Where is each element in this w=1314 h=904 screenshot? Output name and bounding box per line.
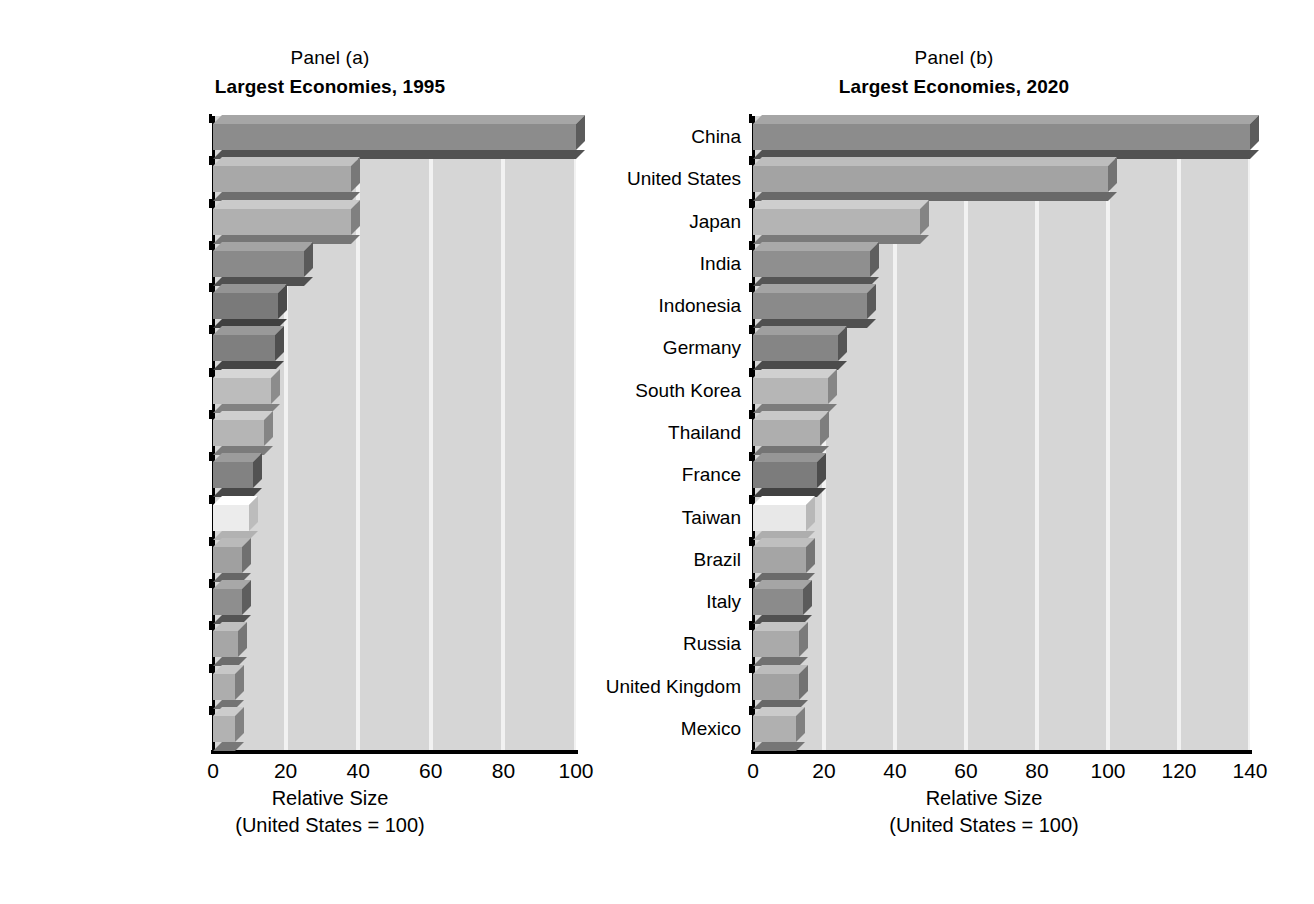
- bar[interactable]: [213, 200, 360, 244]
- bar-side-face: [799, 622, 808, 657]
- category-label: Germany: [663, 338, 741, 357]
- gridline-80: [1035, 116, 1039, 750]
- category-label: Mexico: [681, 719, 741, 738]
- bar-front-face: [753, 420, 820, 446]
- bar[interactable]: [753, 200, 929, 244]
- y-tick-mark: [749, 537, 752, 546]
- bar[interactable]: [753, 538, 815, 582]
- x-tick-60: 60: [926, 760, 1006, 781]
- x-tick-40: 40: [855, 760, 935, 781]
- x-tick-20: 20: [246, 760, 326, 781]
- gridline-80: [501, 116, 505, 750]
- bar-bottom-face: [213, 742, 244, 751]
- bar-front-face: [753, 589, 803, 615]
- bar-top-face: [753, 157, 1117, 166]
- y-tick-mark: [749, 495, 752, 504]
- x-tick-0: 0: [713, 760, 793, 781]
- bar-top-face: [213, 242, 313, 251]
- bar-top-face: [213, 369, 280, 378]
- y-tick-mark: [749, 114, 752, 123]
- panel-b-x-axis: [751, 750, 1252, 754]
- bar[interactable]: [753, 157, 1117, 201]
- y-tick-mark: [209, 368, 212, 377]
- panel-b-axis-title-line2: (United States = 100): [654, 812, 1314, 839]
- bar[interactable]: [753, 115, 1259, 159]
- y-tick-mark: [749, 325, 752, 334]
- bar[interactable]: [753, 496, 815, 540]
- bar[interactable]: [213, 326, 284, 370]
- bar[interactable]: [753, 622, 808, 666]
- y-tick-mark: [749, 199, 752, 208]
- bar-front-face: [753, 674, 799, 700]
- bar-front-face: [753, 124, 1250, 150]
- category-label: Russia: [683, 634, 741, 653]
- panel-a-axis-title-line2: (United States = 100): [0, 812, 660, 839]
- bar[interactable]: [213, 115, 585, 159]
- x-tick-140: 140: [1210, 760, 1290, 781]
- bar[interactable]: [213, 665, 244, 709]
- y-tick-mark: [749, 368, 752, 377]
- bar-front-face: [753, 631, 799, 657]
- y-tick-mark: [209, 199, 212, 208]
- bar[interactable]: [213, 242, 313, 286]
- bar[interactable]: [213, 284, 287, 328]
- category-label: Italy: [706, 592, 741, 611]
- y-tick-mark: [209, 537, 212, 546]
- y-tick-mark: [209, 621, 212, 630]
- y-tick-mark: [749, 283, 752, 292]
- y-tick-mark: [749, 664, 752, 673]
- x-tick-80: 80: [997, 760, 1077, 781]
- y-tick-mark: [209, 706, 212, 715]
- bar-front-face: [753, 716, 796, 742]
- bar[interactable]: [753, 326, 847, 370]
- bar[interactable]: [213, 580, 251, 624]
- bar-front-face: [213, 166, 351, 192]
- bar[interactable]: [213, 496, 258, 540]
- bar-front-face: [213, 378, 271, 404]
- bar[interactable]: [753, 453, 826, 497]
- y-tick-mark: [749, 156, 752, 165]
- bar-front-face: [213, 631, 238, 657]
- bar[interactable]: [753, 411, 829, 455]
- bar[interactable]: [753, 242, 879, 286]
- bar[interactable]: [753, 284, 876, 328]
- bar[interactable]: [213, 707, 244, 751]
- bar[interactable]: [753, 707, 805, 751]
- bar-front-face: [753, 505, 806, 531]
- bar-top-face: [213, 157, 360, 166]
- y-tick-mark: [749, 410, 752, 419]
- bar[interactable]: [753, 580, 812, 624]
- bar-front-face: [213, 124, 576, 150]
- y-tick-mark: [209, 114, 212, 123]
- y-tick-mark: [749, 452, 752, 461]
- bar[interactable]: [213, 157, 360, 201]
- bar[interactable]: [213, 453, 262, 497]
- y-tick-mark: [749, 706, 752, 715]
- bar[interactable]: [213, 411, 273, 455]
- bar-front-face: [213, 547, 242, 573]
- bar-front-face: [213, 335, 275, 361]
- bar-top-face: [753, 200, 929, 209]
- y-tick-mark: [209, 452, 212, 461]
- bar-top-face: [213, 326, 284, 335]
- y-tick-mark: [209, 664, 212, 673]
- category-label: Brazil: [693, 550, 741, 569]
- panel-b-caption: Panel (b): [594, 47, 1314, 69]
- x-tick-100: 100: [1068, 760, 1148, 781]
- bar[interactable]: [213, 622, 247, 666]
- bar[interactable]: [213, 369, 280, 413]
- bar[interactable]: [753, 665, 808, 709]
- panel-b-title: Largest Economies, 2020: [594, 76, 1314, 98]
- x-tick-120: 120: [1139, 760, 1219, 781]
- gridline-120: [1177, 116, 1181, 750]
- bar-front-face: [753, 209, 920, 235]
- bar[interactable]: [213, 538, 251, 582]
- category-label: China: [691, 127, 741, 146]
- bar-front-face: [753, 251, 870, 277]
- bar-front-face: [213, 209, 351, 235]
- panel-a-title: Largest Economies, 1995: [0, 76, 660, 98]
- bar-top-face: [213, 200, 360, 209]
- bar-top-face: [753, 115, 1259, 124]
- y-tick-mark: [209, 410, 212, 419]
- bar[interactable]: [753, 369, 837, 413]
